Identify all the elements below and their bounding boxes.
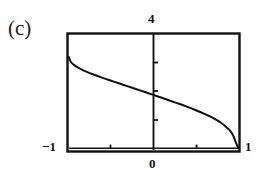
figure-panel: (c) 4 0 −1 1: [0, 0, 263, 178]
plot-area: [0, 0, 263, 178]
